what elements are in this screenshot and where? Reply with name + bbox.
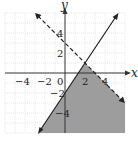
y-tick-label: 4 xyxy=(57,28,63,39)
x-tick-label: 2 xyxy=(82,76,88,87)
x-tick-label: −2 xyxy=(37,76,52,87)
solid-line-arrow-top-icon xyxy=(113,13,119,20)
y-axis-label: y xyxy=(60,0,68,12)
y-tick-label: 2 xyxy=(57,48,63,59)
x-axis-label: x xyxy=(131,66,138,80)
y-tick-label: −4 xyxy=(55,108,70,119)
graph: x y −4 −2 0 2 4 4 2 −2 −4 xyxy=(0,0,138,144)
y-tick-label: −2 xyxy=(50,88,65,99)
x-tick-label: 0 xyxy=(57,76,63,87)
x-tick-label: −4 xyxy=(15,76,30,87)
x-tick-label: 4 xyxy=(102,76,108,87)
